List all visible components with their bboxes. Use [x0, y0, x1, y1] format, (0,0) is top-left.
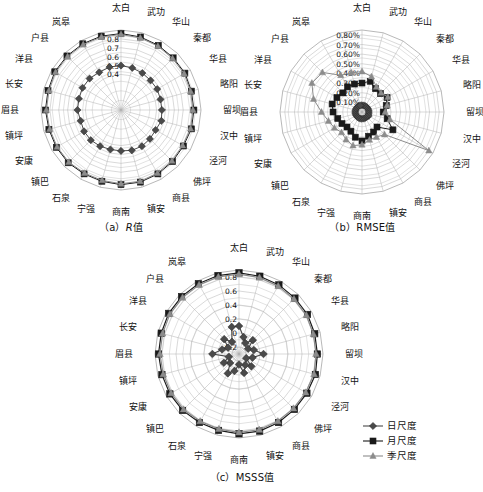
category-label: 华山	[414, 16, 432, 27]
category-label: 商县	[414, 196, 432, 207]
category-label: 秦都	[193, 32, 211, 43]
radial-tick-label: 0.6	[107, 53, 119, 62]
radial-tick-label: 0.7	[107, 44, 119, 53]
radar-chart-a: 太白武功华山秦都华县略阳留坝汉中泾河佛坪商县镇安商南宁强石泉镇巴安康镇坪眉县长安…	[0, 0, 242, 234]
category-label: 镇巴	[146, 423, 164, 434]
caption-c-metric: MSSS	[236, 472, 264, 483]
category-label: 镇巴	[31, 176, 49, 187]
category-label: 汉中	[341, 375, 359, 386]
category-label: 秦都	[436, 33, 454, 44]
category-label: 户县	[271, 33, 289, 44]
legend-item[interactable]: 季尺度	[362, 448, 472, 463]
grid-spoke	[197, 354, 239, 427]
category-label: 镇安	[266, 450, 284, 461]
grid-spoke	[44, 89, 121, 110]
series-marker	[345, 84, 351, 90]
category-label: 洋县	[15, 53, 33, 64]
category-label: 长安	[5, 78, 23, 89]
category-label: 安康	[129, 401, 147, 412]
caption-a-prefix: （a）	[99, 222, 126, 233]
series-marker	[390, 127, 396, 133]
category-label: 商县	[292, 440, 310, 451]
panel-rmse-value: 太白武功华山秦都华县略阳留坝汉中泾河佛坪商县镇安商南宁强石泉镇巴安康镇坪眉县长安…	[242, 0, 483, 246]
panel-msss-value: 太白武功华山秦都华县略阳留坝汉中泾河佛坪商县镇安商南宁强石泉镇巴安康镇坪眉县长安…	[118, 246, 366, 492]
grid-spoke	[304, 112, 362, 170]
radial-tick-label: 0.2	[225, 315, 237, 324]
series-marker	[74, 106, 81, 113]
caption-b-suffix: 值	[385, 222, 395, 233]
radar-chart-c: 太白武功华山秦都华县略阳留坝汉中泾河佛坪商县镇安商南宁强石泉镇巴安康镇坪眉县长安…	[118, 246, 366, 474]
series-marker	[240, 369, 248, 377]
category-label: 华县	[331, 295, 349, 306]
series-marker	[129, 64, 136, 71]
category-label: 石泉	[168, 440, 186, 451]
category-label: 宁强	[194, 450, 212, 461]
radar-grid	[280, 30, 444, 194]
caption-c: （c）MSSS值	[118, 469, 366, 484]
category-label: 户县	[31, 32, 49, 43]
category-label: 太白	[353, 2, 371, 13]
category-label: 太白	[230, 242, 248, 253]
chart-legend: 日尺度月尺度季尺度	[362, 418, 472, 463]
radial-tick-label: 0.70%	[336, 41, 360, 50]
legend-item[interactable]: 月尺度	[362, 433, 472, 448]
diamond-icon	[362, 420, 384, 432]
category-label: 留坝	[345, 348, 363, 359]
series-marker	[158, 106, 165, 113]
category-label: 眉县	[1, 105, 19, 115]
category-label: 安康	[15, 155, 33, 166]
category-label: 华山	[292, 256, 310, 267]
series-marker	[128, 147, 135, 154]
category-label: 太白	[112, 2, 130, 13]
category-label: 安康	[254, 158, 272, 169]
category-label: 秦都	[314, 273, 332, 284]
category-label: 户县	[146, 273, 164, 284]
caption-a-metric: R	[126, 222, 133, 233]
category-label: 泾河	[331, 401, 349, 412]
category-label: 洋县	[254, 54, 272, 65]
category-label: 石泉	[292, 196, 310, 207]
legend-item[interactable]: 日尺度	[362, 418, 472, 433]
category-label: 略阳	[220, 78, 238, 89]
series-marker	[352, 81, 358, 87]
category-label: 镇坪	[119, 375, 137, 386]
category-label: 武功	[266, 246, 284, 257]
caption-b-metric: RMSE	[356, 222, 385, 233]
category-label: 武功	[389, 6, 407, 17]
radial-tick-label: 0.6	[225, 287, 237, 296]
series-marker	[75, 95, 82, 102]
category-label: 留坝	[466, 106, 483, 117]
caption-c-prefix: （c）	[210, 472, 236, 483]
category-label: 略阳	[341, 321, 359, 332]
category-label: 长安	[119, 321, 137, 332]
category-label: 华县	[209, 53, 227, 64]
category-label: 佛坪	[436, 180, 454, 191]
category-label: 岚皋	[292, 16, 310, 27]
category-label: 商南	[230, 454, 248, 465]
series-marker	[117, 147, 124, 154]
category-label: 武功	[147, 6, 165, 17]
category-label: 汉中	[220, 130, 238, 141]
category-label: 眉县	[115, 349, 133, 359]
legend-label: 月尺度	[387, 433, 417, 448]
radial-tick-label: 0.60%	[336, 50, 360, 59]
radial-tick-labels: 0.80.70.60.50.4	[107, 35, 119, 80]
category-label: 商南	[112, 206, 130, 217]
category-label: 宁强	[77, 203, 95, 214]
radial-tick-label: 0	[232, 329, 237, 338]
series-marker	[96, 69, 103, 76]
category-label: 佛坪	[314, 423, 332, 434]
series-marker	[250, 346, 258, 354]
legend-marker	[370, 438, 376, 444]
category-label: 留坝	[223, 104, 241, 115]
radial-tick-label: 0.4	[225, 301, 237, 310]
category-label: 汉中	[463, 133, 481, 144]
series-marker	[340, 90, 346, 96]
triangle-icon	[362, 450, 384, 462]
category-label: 眉县	[240, 107, 258, 117]
category-label: 镇巴	[271, 180, 289, 191]
category-label: 佛坪	[193, 176, 211, 187]
series-marker	[329, 101, 335, 107]
category-label: 岚皋	[168, 256, 186, 267]
series-marker	[335, 115, 341, 121]
